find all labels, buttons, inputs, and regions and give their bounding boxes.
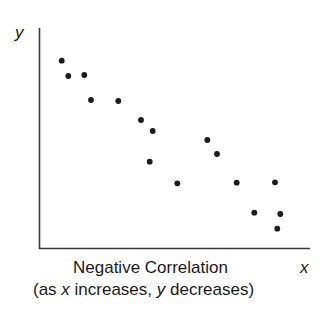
data-point: [251, 210, 257, 216]
x-axis-label: x: [300, 259, 309, 276]
data-point: [65, 73, 71, 79]
chart-title: Negative Correlation: [73, 259, 228, 276]
data-point: [147, 159, 153, 165]
data-point: [204, 137, 210, 143]
y-axis-label: y: [15, 24, 24, 41]
data-point: [277, 211, 283, 217]
subtitle-prefix: (as: [33, 280, 61, 299]
subtitle-x-variable: x: [61, 280, 70, 299]
subtitle-middle: increases,: [70, 280, 157, 299]
data-point: [59, 58, 65, 64]
data-point: [81, 72, 87, 78]
subtitle-y-variable: y: [157, 280, 166, 299]
data-point: [174, 180, 180, 186]
data-point: [115, 98, 121, 104]
data-point: [272, 179, 278, 185]
data-point: [274, 226, 280, 232]
subtitle-suffix: decreases): [165, 280, 254, 299]
axes-frame: [40, 28, 311, 249]
scatter-plot: [0, 0, 335, 327]
data-point: [88, 97, 94, 103]
data-point: [138, 117, 144, 123]
data-point: [214, 151, 220, 157]
data-point: [150, 128, 156, 134]
chart-subtitle: (as x increases, y decreases): [33, 281, 254, 298]
data-points: [59, 58, 283, 232]
data-point: [234, 180, 240, 186]
